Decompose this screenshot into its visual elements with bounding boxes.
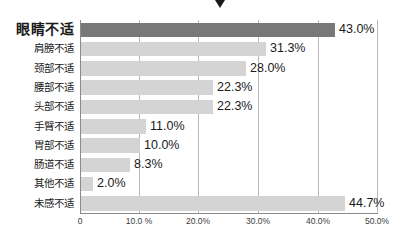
category-label: 肠道不适 <box>0 155 74 174</box>
bar-value-label: 43.0% <box>339 20 374 39</box>
category-label: 腰部不适 <box>0 78 74 97</box>
x-axis-line <box>80 213 378 214</box>
bar-value-label: 22.3% <box>217 97 252 116</box>
x-tick-label: 40.0% <box>306 216 330 226</box>
bar-row: 头部不适 22.3% <box>0 97 408 116</box>
category-label: 肩膀不适 <box>0 39 74 58</box>
bar <box>81 138 140 153</box>
x-tick-label: 30.0% <box>246 216 270 226</box>
bar-value-label: 28.0% <box>250 59 285 78</box>
category-label: 头部不适 <box>0 97 74 116</box>
bar-row: 腰部不适 22.3% <box>0 78 408 97</box>
bar-value-label: 44.7% <box>349 194 384 213</box>
bar-row: 其他不适 2.0% <box>0 174 408 193</box>
x-tick-label: 20.0% <box>186 216 210 226</box>
bar-value-label: 11.0% <box>150 117 185 136</box>
bar-row: 未感不适 44.7% <box>0 194 408 213</box>
category-label: 未感不适 <box>0 194 74 213</box>
bar <box>81 119 146 134</box>
category-label: 颈部不适 <box>0 59 74 78</box>
bar-value-label: 10.0% <box>144 136 179 155</box>
bar-chart: 眼睛不适 43.0% 肩膀不适 31.3% 颈部不适 28.0% 腰部不适 22… <box>0 0 408 242</box>
category-label: 其他不适 <box>0 174 74 193</box>
category-label: 胃部不适 <box>0 136 74 155</box>
bar-value-label: 31.3% <box>270 39 305 58</box>
category-label: 手臂不适 <box>0 117 74 136</box>
bar <box>81 196 345 211</box>
bar <box>81 177 93 192</box>
bar <box>81 80 213 95</box>
x-tick-label: 0 <box>78 216 83 226</box>
bar-value-label: 8.3% <box>134 155 163 174</box>
bar <box>81 23 335 38</box>
bar <box>81 158 130 173</box>
bar-row: 手臂不适 11.0% <box>0 117 408 136</box>
bar-value-label: 22.3% <box>217 78 252 97</box>
down-triangle-marker-icon <box>215 0 225 8</box>
bar-row: 胃部不适 10.0% <box>0 136 408 155</box>
bar-value-label: 2.0% <box>97 174 126 193</box>
bar <box>81 61 246 76</box>
bar <box>81 100 213 115</box>
bar-row: 肩膀不适 31.3% <box>0 39 408 58</box>
category-label: 眼睛不适 <box>0 20 74 39</box>
bar-row: 肠道不适 8.3% <box>0 155 408 174</box>
x-tick-label: 10.0 % <box>126 216 152 226</box>
bar <box>81 42 266 57</box>
bar-row: 眼睛不适 43.0% <box>0 20 408 39</box>
bar-row: 颈部不适 28.0% <box>0 59 408 78</box>
x-tick-label: 50.0% <box>365 216 389 226</box>
